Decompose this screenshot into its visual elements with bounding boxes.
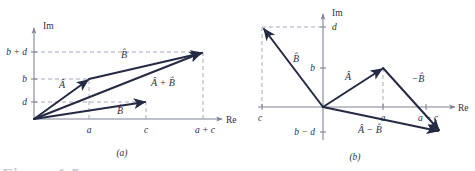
panel-b-re-axis-label: Re xyxy=(458,103,469,113)
panel-b-xlabel-c: c xyxy=(258,113,263,123)
panel-b-label-vector-A: Â xyxy=(344,71,352,82)
panel-a-ylabel-b: b xyxy=(22,74,27,84)
panel-a-vector-B-lower xyxy=(34,102,145,119)
panel-b-ylabel-d: d xyxy=(332,22,337,32)
panel-b-ylabel-b: b xyxy=(310,63,315,73)
panel-b-vector-A xyxy=(323,69,382,107)
panel-b-ylabel-bminusd: b − d xyxy=(294,127,315,137)
panel-b-label-vector-negative-B: −B̂ xyxy=(412,72,425,84)
panel-b-xlabel-a: a xyxy=(381,113,386,123)
figure-container: Im Re b + d b d a c a + c xyxy=(0,0,475,171)
panel-a-label-vector-A-plus-B: Â + B̂ xyxy=(150,76,175,88)
panel-a-ylabel-bplusd: b + d xyxy=(6,47,27,57)
panel-b-caption: (b) xyxy=(349,152,360,163)
panel-a-label-vector-B-upper: B̂ xyxy=(121,48,127,60)
panel-a-ylabel-d: d xyxy=(22,97,27,107)
panel-a-re-axis-label: Re xyxy=(226,115,237,125)
panel-a-label-vector-B-lower: B̂ xyxy=(117,104,123,116)
panel-b: Im Re d b b − d c a a − c xyxy=(258,8,469,163)
panel-a-xlabel-a: a xyxy=(87,125,92,135)
figure-caption-cutoff: Figure 1.5 xyxy=(2,165,80,171)
panel-a-xlabel-aplusc: a + c xyxy=(195,125,216,135)
panel-b-im-axis-label: Im xyxy=(332,8,343,18)
panel-a-label-vector-A: Â xyxy=(58,79,66,90)
panel-b-label-vector-A-minus-B: Â − B̂ xyxy=(357,123,382,135)
panel-a: Im Re b + d b d a c a + c xyxy=(6,21,236,159)
complex-plane-figure: Im Re b + d b d a c a + c xyxy=(0,0,475,171)
panel-a-caption: (a) xyxy=(116,148,127,159)
panel-a-xlabel-c: c xyxy=(144,125,149,135)
panel-a-im-axis-label: Im xyxy=(43,21,54,31)
panel-b-label-vector-B: B̂ xyxy=(293,52,299,64)
